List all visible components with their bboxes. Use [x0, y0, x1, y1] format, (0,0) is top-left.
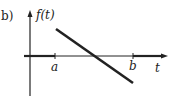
x-axis-arrow-icon: [161, 54, 168, 59]
plot-canvas: [0, 0, 173, 96]
y-axis-label: f(t): [36, 9, 55, 21]
x-axis-label: t: [155, 62, 160, 74]
tick-label-a: a: [51, 61, 58, 73]
figure: b) f(t) t a b: [0, 0, 173, 96]
y-axis-arrow-icon: [28, 10, 33, 17]
tick-label-b: b: [129, 60, 137, 72]
panel-label: b): [1, 10, 13, 22]
